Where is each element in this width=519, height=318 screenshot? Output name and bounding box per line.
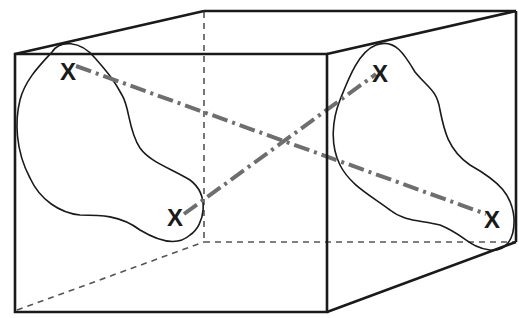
connector-lines: [76, 66, 486, 214]
marker-x-4: X: [484, 206, 500, 233]
marker-x-3: X: [372, 60, 388, 87]
visible-edges: [15, 11, 516, 312]
marker-x-1: X: [60, 58, 76, 85]
marker-x-2: X: [167, 204, 183, 231]
hidden-edges: [17, 12, 516, 310]
cube-diagram: X X X X: [0, 0, 519, 318]
